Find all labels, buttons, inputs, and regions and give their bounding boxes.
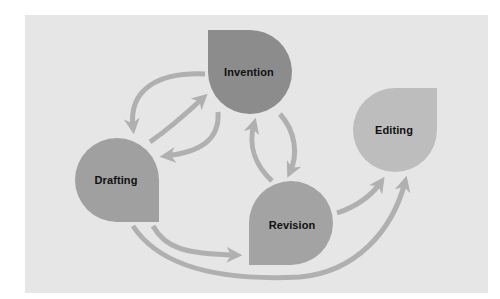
edge-revision-to-editing bbox=[337, 182, 381, 213]
writing-process-diagram bbox=[0, 0, 500, 299]
edge-drafting-to-invention bbox=[150, 98, 203, 142]
edge-drafting-to-revision bbox=[153, 226, 236, 255]
label-invention: Invention bbox=[224, 66, 274, 78]
label-drafting: Drafting bbox=[95, 174, 138, 186]
label-editing: Editing bbox=[375, 124, 413, 136]
edge-invention-to-drafting-lower bbox=[166, 112, 218, 156]
label-revision: Revision bbox=[269, 219, 316, 231]
edge-invention-to-drafting-upper bbox=[132, 74, 205, 128]
edge-revision-to-invention bbox=[252, 124, 272, 181]
edge-invention-to-revision bbox=[280, 114, 295, 172]
